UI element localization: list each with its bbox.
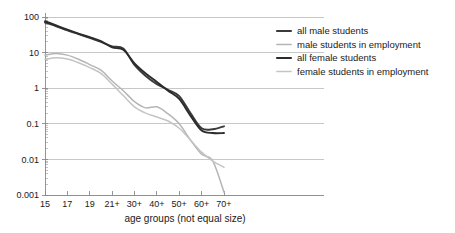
x-tick-label: 15 xyxy=(40,199,50,209)
x-tick-label: 50+ xyxy=(172,199,187,209)
x-tick-label: 30+ xyxy=(127,199,142,209)
x-tick-label: 21+ xyxy=(104,199,119,209)
legend-label-2: all female students xyxy=(297,52,376,63)
series-line-0 xyxy=(45,23,224,130)
y-tick-label: 0.1 xyxy=(26,119,39,129)
x-axis-tick-labels: 15171921+30+40+50+60+70+ xyxy=(40,199,232,209)
y-tick-label: 100 xyxy=(24,12,39,22)
chart-legend: all male studentsmale students in employ… xyxy=(277,25,429,77)
x-tick-label: 17 xyxy=(62,199,72,209)
x-axis-title: age groups (not equal size) xyxy=(124,213,245,224)
y-tick-label: 1 xyxy=(34,83,39,93)
x-tick-label: 40+ xyxy=(149,199,164,209)
data-series-layer xyxy=(45,21,224,192)
series-line-3 xyxy=(45,58,224,168)
series-line-2 xyxy=(45,21,224,133)
x-tickmarks xyxy=(45,191,224,195)
y-tick-label: 0.001 xyxy=(16,190,39,200)
line-chart: 1001010.10.010.001 15171921+30+40+50+60+… xyxy=(0,0,455,233)
y-tick-label: 10 xyxy=(29,48,39,58)
chart-figure: 1001010.10.010.001 15171921+30+40+50+60+… xyxy=(0,0,455,233)
x-tick-label: 70+ xyxy=(216,199,231,209)
legend-label-1: male students in employment xyxy=(297,39,421,50)
x-tick-label: 60+ xyxy=(194,199,209,209)
legend-label-3: female students in employment xyxy=(297,66,429,77)
y-tick-label: 0.01 xyxy=(21,155,39,165)
legend-label-0: all male students xyxy=(297,25,369,36)
y-axis-tick-labels: 1001010.10.010.001 xyxy=(16,12,39,200)
x-tick-label: 19 xyxy=(85,199,95,209)
